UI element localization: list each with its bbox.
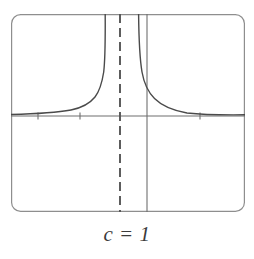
plot-canvas [11,14,245,212]
figure-caption: c = 1 [0,222,254,247]
figure-container: c = 1 [0,0,254,259]
plot-frame [11,14,245,212]
